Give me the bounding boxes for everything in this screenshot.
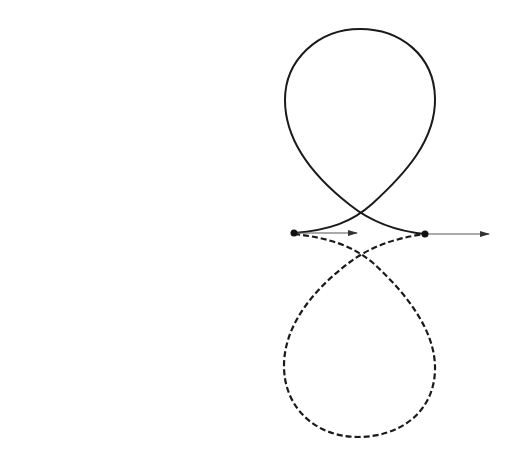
lower-dashed-loop — [284, 234, 435, 437]
upper-solid-loop — [285, 29, 435, 234]
right-point — [422, 231, 429, 238]
loop-diagram — [0, 0, 512, 468]
left-point — [291, 230, 298, 237]
